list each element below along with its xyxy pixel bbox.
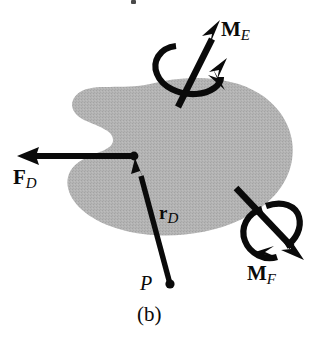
label-moment-ME: ME <box>221 19 250 43</box>
label-moment-MF: MF <box>247 263 276 287</box>
label-position-vector-rD: rD <box>159 203 178 226</box>
label-force-FD-symbol: F <box>13 165 26 189</box>
label-moment-MF-symbol: M <box>247 261 267 285</box>
figure-panel: ME MF FD rD P (b) <box>0 0 321 347</box>
label-moment-MF-subscript: F <box>267 271 276 287</box>
label-point-P: P <box>140 273 152 293</box>
label-moment-ME-symbol: M <box>221 17 241 41</box>
label-moment-ME-subscript: E <box>241 27 250 43</box>
label-force-FD: FD <box>13 167 37 191</box>
label-force-FD-subscript: D <box>26 175 37 191</box>
cropped-glyph-artifact <box>131 0 136 4</box>
figure-caption: (b) <box>137 304 162 325</box>
diagram-canvas <box>0 0 321 347</box>
label-position-vector-rD-subscript: D <box>167 210 178 226</box>
